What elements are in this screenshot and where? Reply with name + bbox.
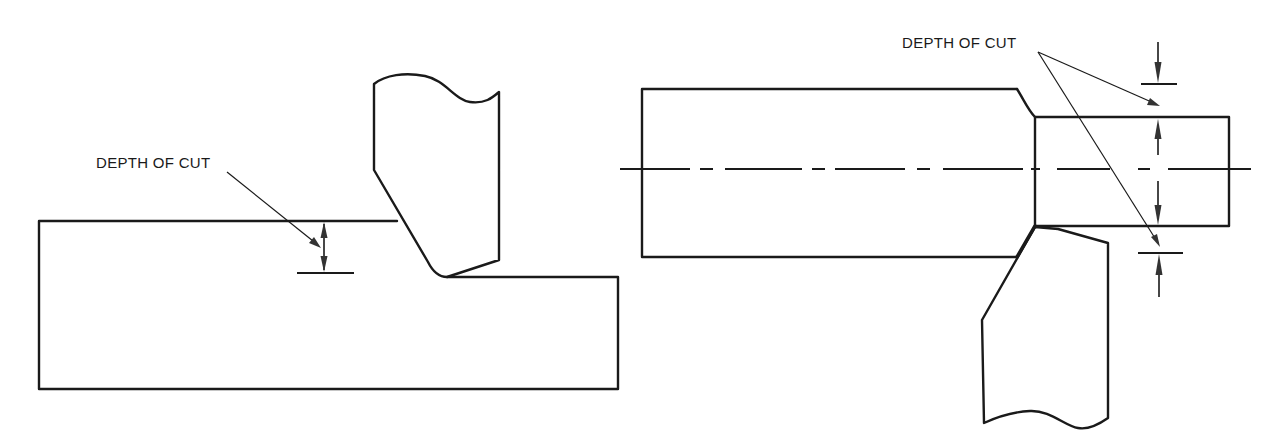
left-workpiece <box>39 221 618 389</box>
right-large-cylinder <box>642 89 1017 257</box>
diagram-canvas: DEPTH OF CUT <box>0 0 1277 445</box>
left-leader-line <box>227 172 318 245</box>
right-lower-outer-arrow-icon <box>1156 254 1163 275</box>
left-depth-arrow-up-icon <box>321 222 328 238</box>
right-upper-chamfer <box>1017 89 1035 117</box>
right-figure: DEPTH OF CUT <box>620 34 1251 428</box>
left-figure: DEPTH OF CUT <box>39 74 618 389</box>
right-leader-line-lower <box>1038 52 1158 243</box>
right-inner-arrow-down-icon <box>1155 205 1162 225</box>
right-leader-line-upper <box>1038 52 1156 104</box>
right-inner-arrow-up-icon <box>1155 119 1162 139</box>
right-upper-outer-arrow-icon <box>1155 62 1162 83</box>
right-depth-of-cut-label: DEPTH OF CUT <box>902 34 1016 51</box>
left-cutting-tool <box>374 74 499 277</box>
left-depth-arrow-down-icon <box>321 256 328 272</box>
right-leader-arrow-upper-icon <box>1147 98 1160 106</box>
right-leader-arrow-lower-icon <box>1151 234 1160 247</box>
right-reduced-cylinder <box>1035 117 1229 226</box>
left-depth-of-cut-label: DEPTH OF CUT <box>96 154 210 171</box>
